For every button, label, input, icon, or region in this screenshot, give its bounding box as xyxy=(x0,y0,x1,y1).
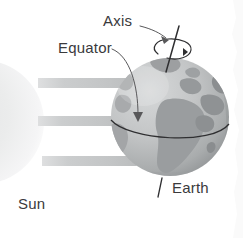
paper-edge xyxy=(232,0,243,238)
label-earth: Earth xyxy=(172,180,209,195)
label-axis: Axis xyxy=(103,13,132,28)
sun-circle xyxy=(0,60,44,184)
rotation-direction-arrowhead xyxy=(183,48,188,56)
earth-leader-line xyxy=(158,178,162,197)
earth-sun-diagram: Axis Equator Earth Sun xyxy=(0,0,243,238)
label-sun: Sun xyxy=(18,196,45,211)
globe-highlight xyxy=(117,66,169,106)
axis-leader-line xyxy=(140,26,166,38)
label-equator: Equator xyxy=(58,40,112,55)
